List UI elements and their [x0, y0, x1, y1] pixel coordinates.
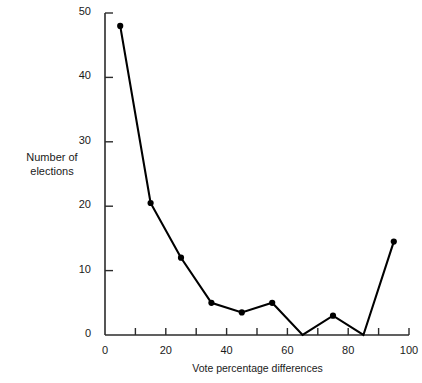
x-axis-tick-label: 100	[389, 344, 422, 356]
y-axis-title-line-1: Number of	[26, 151, 77, 163]
y-axis-tick-label: 40	[61, 69, 91, 81]
x-axis-tick-label: 80	[328, 344, 368, 356]
series-line	[120, 26, 394, 335]
line-chart: Number ofelections Vote percentage diffe…	[0, 0, 422, 383]
x-axis-tick-label: 20	[146, 344, 186, 356]
x-axis-tick-label: 60	[267, 344, 307, 356]
plot-area	[0, 0, 422, 383]
y-axis-title: Number ofelections	[6, 150, 98, 178]
data-series-line	[120, 26, 394, 335]
data-point-marker	[269, 300, 275, 306]
y-axis-tick-label: 10	[61, 263, 91, 275]
x-axis-tick-label: 0	[85, 344, 125, 356]
axis-ticks	[105, 13, 409, 335]
data-point-marker	[391, 239, 397, 245]
data-point-marker	[239, 309, 245, 315]
y-axis-tick-label: 30	[61, 134, 91, 146]
x-axis-title: Vote percentage differences	[105, 361, 410, 375]
x-axis-tick-label: 40	[207, 344, 247, 356]
y-axis-tick-label: 20	[61, 198, 91, 210]
data-point-marker	[178, 255, 184, 261]
data-point-marker	[208, 300, 214, 306]
data-point-markers	[117, 23, 397, 319]
data-point-marker	[148, 200, 154, 206]
axes	[105, 13, 409, 335]
y-axis-tick-label: 0	[61, 327, 91, 339]
data-point-marker	[117, 23, 123, 29]
y-axis-title-line-2: elections	[30, 165, 73, 177]
y-axis-tick-label: 50	[61, 5, 91, 17]
data-point-marker	[330, 313, 336, 319]
